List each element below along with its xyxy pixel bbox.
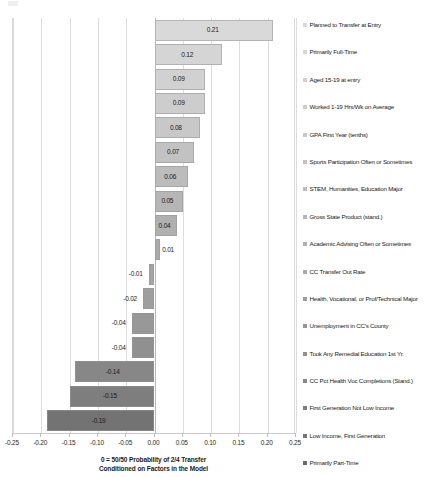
bar-value-label: -0.04 bbox=[112, 344, 126, 351]
legend-item-label: Academic Advising Often or Sometimes bbox=[310, 241, 411, 247]
legend-item: Low Income, First Generation bbox=[303, 433, 430, 460]
bar-chart-figure: 0.210.120.090.090.080.070.060.050.040.01… bbox=[0, 0, 430, 477]
bar bbox=[155, 239, 161, 260]
bar bbox=[149, 264, 155, 285]
legend-item-label: Aged 15-19 at entry bbox=[310, 77, 361, 83]
legend-item-label: Planned to Transfer at Entry bbox=[310, 22, 381, 28]
x-axis-title-line2: Conditioned on Factors in the Model bbox=[12, 464, 295, 473]
legend-swatch-icon bbox=[303, 297, 307, 301]
legend-swatch-icon bbox=[303, 324, 307, 328]
x-axis-tick bbox=[40, 433, 41, 437]
x-axis-tick-label: 0.05 bbox=[176, 439, 188, 446]
x-axis-tick bbox=[125, 433, 126, 437]
legend-item: Unemployment in CC's County bbox=[303, 323, 430, 350]
x-axis-tick bbox=[267, 433, 268, 437]
legend-swatch-icon bbox=[303, 133, 307, 137]
legend-item-label: Unemployment in CC's County bbox=[310, 323, 389, 329]
x-axis-tick bbox=[210, 433, 211, 437]
legend-item: Health, Vocational, or Prof/Technical Ma… bbox=[303, 296, 430, 323]
legend-item: First Generation Not Low Income bbox=[303, 405, 430, 432]
legend-swatch-icon bbox=[303, 379, 307, 383]
legend-item-label: CC Transfer Out Rate bbox=[310, 269, 366, 275]
x-axis-tick-label: -0.10 bbox=[90, 439, 104, 446]
bar-value-label: 0.12 bbox=[181, 51, 193, 58]
legend-swatch-icon bbox=[303, 23, 307, 27]
legend-item: Primarily Part-Time bbox=[303, 460, 430, 477]
legend-swatch-icon bbox=[303, 270, 307, 274]
legend-item: Gross State Product (stand.) bbox=[303, 214, 430, 241]
legend-swatch-icon bbox=[303, 50, 307, 54]
bar-value-label: -0.19 bbox=[92, 417, 106, 424]
legend-item-label: Gross State Product (stand.) bbox=[310, 214, 383, 220]
legend-item-label: STEM, Humanities, Education Major bbox=[310, 186, 403, 192]
bar bbox=[132, 337, 155, 358]
x-axis-tick bbox=[69, 433, 70, 437]
x-axis-tick bbox=[12, 433, 13, 437]
x-axis-tick-label: 0.15 bbox=[232, 439, 244, 446]
legend-item: GPA First Year (tenths) bbox=[303, 132, 430, 159]
bar-series: 0.210.120.090.090.080.070.060.050.040.01… bbox=[13, 18, 294, 433]
legend-item-label: Took Any Remedial Education 1st Yr. bbox=[310, 351, 404, 357]
x-axis-title-line1: 0 = 50/50 Probability of 2/4 Transfer bbox=[12, 455, 295, 464]
legend-swatch-icon bbox=[303, 187, 307, 191]
bar bbox=[132, 313, 155, 334]
legend-item: STEM, Humanities, Education Major bbox=[303, 186, 430, 213]
x-axis-tick bbox=[295, 433, 296, 437]
x-axis-tick-label: -0.20 bbox=[33, 439, 47, 446]
bar-value-label: 0.07 bbox=[167, 148, 179, 155]
x-axis-tick bbox=[238, 433, 239, 437]
legend-swatch-icon bbox=[303, 461, 307, 465]
x-axis-tick-label: 0.00 bbox=[148, 439, 160, 446]
x-axis-tick-label: 0.20 bbox=[261, 439, 273, 446]
bar-value-label: 0.01 bbox=[162, 246, 174, 253]
x-axis-tick-label: 0.10 bbox=[204, 439, 216, 446]
bar-value-label: -0.15 bbox=[103, 392, 117, 399]
legend-swatch-icon bbox=[303, 434, 307, 438]
bar-value-label: -0.14 bbox=[106, 368, 120, 375]
plot-area: 0.210.120.090.090.080.070.060.050.040.01… bbox=[12, 18, 295, 433]
legend-item-label: First Generation Not Low Income bbox=[310, 405, 395, 411]
bar-value-label: 0.04 bbox=[159, 222, 171, 229]
legend-swatch-icon bbox=[303, 160, 307, 164]
gridline bbox=[296, 18, 297, 433]
legend-swatch-icon bbox=[303, 78, 307, 82]
x-axis-tick-label: -0.05 bbox=[118, 439, 132, 446]
bar-value-label: 0.05 bbox=[161, 197, 173, 204]
legend-item: Aged 15-19 at entry bbox=[303, 77, 430, 104]
x-axis-tick-label: 0.25 bbox=[289, 439, 301, 446]
legend-swatch-icon bbox=[303, 242, 307, 246]
legend-item-label: GPA First Year (tenths) bbox=[310, 132, 368, 138]
bar-value-label: -0.01 bbox=[129, 270, 143, 277]
legend-item-label: CC Pct Health Voc Completions (Stand.) bbox=[310, 378, 413, 384]
legend-item: CC Transfer Out Rate bbox=[303, 269, 430, 296]
legend-item: Planned to Transfer at Entry bbox=[303, 22, 430, 49]
bar-value-label: 0.09 bbox=[173, 75, 185, 82]
legend-item-label: Primarily Full-Time bbox=[310, 49, 358, 55]
legend-item-label: Low Income, First Generation bbox=[310, 433, 386, 439]
legend-item-label: Worked 1-19 Hrs/Wk on Average bbox=[310, 104, 394, 110]
bar bbox=[143, 288, 154, 309]
bar-value-label: -0.02 bbox=[123, 295, 137, 302]
bar-value-label: 0.06 bbox=[164, 173, 176, 180]
x-axis-title: 0 = 50/50 Probability of 2/4 Transfer Co… bbox=[12, 455, 295, 473]
scan-artifact bbox=[8, 1, 18, 6]
legend-item: Took Any Remedial Education 1st Yr. bbox=[303, 351, 430, 378]
x-axis-tick bbox=[97, 433, 98, 437]
bar-value-label: 0.08 bbox=[170, 124, 182, 131]
legend-item: Primarily Full-Time bbox=[303, 49, 430, 76]
x-axis-tick bbox=[182, 433, 183, 437]
chart-legend: Planned to Transfer at EntryPrimarily Fu… bbox=[303, 22, 430, 477]
legend-swatch-icon bbox=[303, 105, 307, 109]
x-axis-tick bbox=[154, 433, 155, 437]
legend-item-label: Sports Participation Often or Sometimes bbox=[310, 159, 413, 165]
legend-item-label: Primarily Part-Time bbox=[310, 460, 359, 466]
legend-item: Worked 1-19 Hrs/Wk on Average bbox=[303, 104, 430, 131]
bar-value-label: 0.09 bbox=[173, 99, 185, 106]
x-axis-tick-label: -0.15 bbox=[62, 439, 76, 446]
x-axis-tick-label: -0.25 bbox=[5, 439, 19, 446]
legend-item: CC Pct Health Voc Completions (Stand.) bbox=[303, 378, 430, 405]
bar-value-label: 0.21 bbox=[207, 26, 219, 33]
legend-item: Academic Advising Often or Sometimes bbox=[303, 241, 430, 268]
bar-value-label: -0.04 bbox=[112, 319, 126, 326]
legend-swatch-icon bbox=[303, 215, 307, 219]
